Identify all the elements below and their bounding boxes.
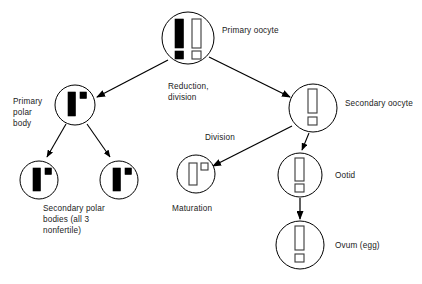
chromosome-filled-small xyxy=(125,168,132,175)
chromosome-open-small xyxy=(295,254,304,262)
chromosome-open-long xyxy=(295,226,304,250)
chromosome-open-small xyxy=(308,117,317,125)
chromosome-open-long xyxy=(189,163,197,185)
label-reduction-division-line2: division xyxy=(168,93,197,102)
label-maturation: Maturation xyxy=(172,204,212,213)
arrow-primary-polar-body-to-secondary-polar-body-left xyxy=(47,124,66,157)
chromosome-filled-long xyxy=(113,168,121,191)
label-ootid: Ootid xyxy=(335,171,356,180)
cell-maturation-polar-body xyxy=(177,155,215,193)
label-primary-oocyte: Primary oocyte xyxy=(222,26,279,35)
chromosome-open-long xyxy=(308,89,317,113)
cell-primary-polar-body xyxy=(55,85,95,125)
label-secondary-polar-bodies-line1: Secondary polar xyxy=(43,204,105,213)
cell-secondary-polar-body-left xyxy=(20,161,58,199)
cell-primary-oocyte xyxy=(162,12,214,64)
label-primary-polar-body-line1: Primary xyxy=(13,97,43,106)
cell-ootid xyxy=(278,153,322,197)
arrow-primary-oocyte-to-secondary-oocyte xyxy=(209,57,290,97)
arrow-primary-oocyte-to-primary-polar-body xyxy=(97,60,168,97)
chromosome-open-small xyxy=(192,51,201,59)
chromosome-open-small xyxy=(295,184,304,192)
label-reduction-division-line1: Reduction, xyxy=(168,82,209,91)
chromosome-filled-small xyxy=(45,168,52,175)
arrow-secondary-oocyte-to-maturation xyxy=(213,126,292,166)
label-primary-polar-body-line2: polar xyxy=(13,108,32,117)
label-secondary-oocyte: Secondary oocyte xyxy=(345,99,413,108)
label-secondary-polar-bodies-line2: bodies (all 3 xyxy=(43,215,89,224)
chromosome-filled-small xyxy=(80,92,87,99)
chromosome-filled-small xyxy=(175,51,184,59)
cell-ovum xyxy=(276,221,324,269)
label-primary-polar-body-line3: body xyxy=(13,119,32,128)
cell-secondary-polar-body-right xyxy=(100,161,138,199)
label-secondary-polar-bodies-line3: nonfertile) xyxy=(43,226,81,235)
chromosome-filled-long xyxy=(33,168,41,191)
arrow-secondary-oocyte-to-ootid xyxy=(302,133,309,150)
chromosome-filled-long xyxy=(68,92,76,116)
label-division: Division xyxy=(205,133,235,142)
chromosome-open-long xyxy=(192,19,201,48)
primary-oocyte-membrane xyxy=(162,12,214,64)
label-ovum: Ovum (egg) xyxy=(335,241,380,250)
oogenesis-diagram: Primary oocyte Primary polar body Reduct… xyxy=(0,0,422,284)
oogenesis-diagram-canvas: Primary oocyte Primary polar body Reduct… xyxy=(0,0,422,284)
chromosome-open-small xyxy=(201,163,208,170)
chromosome-filled-long xyxy=(175,19,184,48)
chromosome-open-long xyxy=(295,158,304,181)
cell-secondary-oocyte xyxy=(289,84,337,132)
arrow-primary-polar-body-to-secondary-polar-body-right xyxy=(87,124,110,157)
